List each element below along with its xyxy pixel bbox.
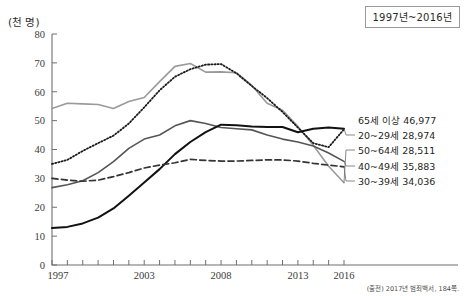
y-axis-tick-labels: 01020304050607080 xyxy=(35,29,46,271)
legend-label: 30~39세 34,036 xyxy=(358,176,435,187)
x-tick-label: 2016 xyxy=(334,270,355,281)
legend-labels: 65세 이상 46,97720~29세 28,97450~64세 28,5114… xyxy=(358,115,436,187)
x-axis-tick-labels: 19972003200820132016 xyxy=(48,270,355,281)
x-tick-label: 2003 xyxy=(134,270,155,281)
legend-label: 50~64세 28,511 xyxy=(358,145,435,156)
legend-label: 65세 이상 46,977 xyxy=(358,115,436,126)
chart-container: (천 명) 1997년~2016년 01020304050607080 1997… xyxy=(0,0,464,296)
legend-leader-line xyxy=(344,167,355,181)
x-axis-tick-marks xyxy=(52,260,344,265)
y-tick-label: 80 xyxy=(35,29,46,40)
x-tick-label: 2013 xyxy=(287,270,308,281)
series-line-30~39세 xyxy=(52,159,344,181)
series-line-20~29세 xyxy=(52,125,344,228)
legend-leader-lines xyxy=(344,129,355,183)
series-line-50~64세 xyxy=(52,63,344,182)
data-series-group xyxy=(52,63,344,228)
y-tick-label: 50 xyxy=(35,115,46,126)
source-note: (출전) 2017년 범죄백서, 184쪽. xyxy=(367,283,459,293)
y-axis-tick-marks xyxy=(52,34,57,265)
line-chart-plot: 01020304050607080 19972003200820132016 6… xyxy=(0,0,464,296)
y-tick-label: 10 xyxy=(35,231,46,242)
series-line-65세 이상 xyxy=(52,64,344,164)
y-tick-label: 0 xyxy=(40,260,45,271)
legend-label: 20~29세 28,974 xyxy=(358,130,435,141)
legend-leader-line xyxy=(344,129,355,135)
x-tick-label: 2008 xyxy=(211,270,232,281)
y-tick-label: 40 xyxy=(35,144,46,155)
x-tick-label: 1997 xyxy=(48,270,69,281)
legend-label: 40~49세 35,883 xyxy=(358,161,435,172)
y-tick-label: 60 xyxy=(35,87,46,98)
y-tick-label: 70 xyxy=(35,58,46,69)
y-tick-label: 30 xyxy=(35,173,46,184)
y-tick-label: 20 xyxy=(35,202,46,213)
